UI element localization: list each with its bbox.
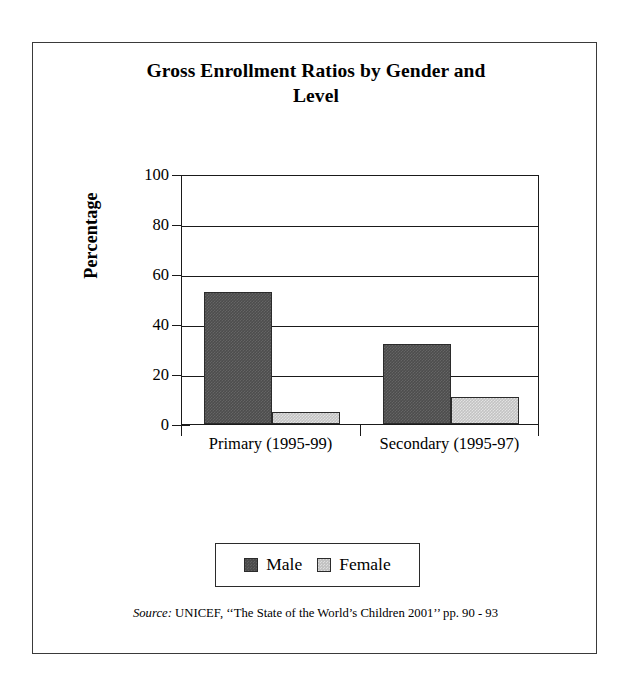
legend-label: Female bbox=[339, 556, 391, 574]
legend-swatch-female-icon bbox=[317, 558, 331, 572]
y-axis-tick-label: 40 bbox=[117, 317, 169, 334]
legend-entry-female[interactable]: Female bbox=[317, 556, 391, 574]
x-axis-category-label: Secondary (1995-97) bbox=[360, 435, 539, 453]
bar-male-0 bbox=[204, 292, 272, 425]
figure-frame: Gross Enrollment Ratios by Gender and Le… bbox=[32, 42, 597, 654]
source-note: Source: UNICEF, ‘‘The State of the World… bbox=[33, 606, 598, 621]
x-axis-category-label: Primary (1995-99) bbox=[181, 435, 360, 453]
bar-female-1 bbox=[451, 397, 519, 425]
y-axis-tick-label: 20 bbox=[117, 367, 169, 384]
y-axis-tick-label: 80 bbox=[117, 217, 169, 234]
y-axis-tick-label: 60 bbox=[117, 267, 169, 284]
y-axis-tick-label: 0 bbox=[117, 417, 169, 434]
source-text: UNICEF, ‘‘The State of the World’s Child… bbox=[172, 606, 498, 620]
bar-female-0 bbox=[272, 412, 340, 425]
gridline bbox=[182, 226, 538, 227]
plot-wrapper: Percentage 100806040200 Primary (1995-99… bbox=[33, 43, 598, 655]
bar-male-1 bbox=[383, 344, 451, 424]
legend-swatch-male-icon bbox=[244, 558, 258, 572]
x-axis-category-labels: Primary (1995-99)Secondary (1995-97) bbox=[181, 435, 539, 461]
source-label: Source: bbox=[133, 606, 172, 620]
y-axis-title: Percentage bbox=[81, 160, 102, 312]
plot-area bbox=[181, 175, 539, 425]
legend-label: Male bbox=[266, 556, 302, 574]
legend-entry-male[interactable]: Male bbox=[244, 556, 302, 574]
gridline bbox=[182, 276, 538, 277]
y-axis-tick-label: 100 bbox=[117, 167, 169, 184]
y-axis-tick-labels: 100806040200 bbox=[109, 175, 169, 425]
chart-legend: MaleFemale bbox=[215, 543, 420, 587]
